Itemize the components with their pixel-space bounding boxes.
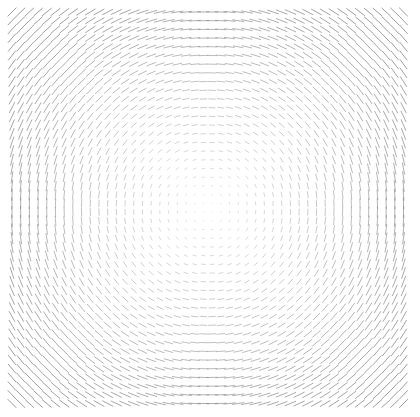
vector-null-dot	[211, 194, 212, 195]
vector-null-dot	[194, 203, 195, 204]
vector-null-dot	[203, 211, 204, 212]
vector-null-dot	[211, 203, 212, 204]
vector-null-dot	[220, 203, 221, 204]
quiver-field-plot	[0, 0, 420, 417]
vector-null-dot	[203, 194, 204, 195]
vector-null-dot	[203, 220, 204, 221]
vector-null-dot	[211, 220, 212, 221]
vector-null-dot	[194, 211, 195, 212]
vector-field-figure	[0, 0, 420, 417]
vector-null-dot	[211, 211, 212, 212]
vector-null-dot	[203, 203, 204, 204]
vector-null-dot	[220, 211, 221, 212]
